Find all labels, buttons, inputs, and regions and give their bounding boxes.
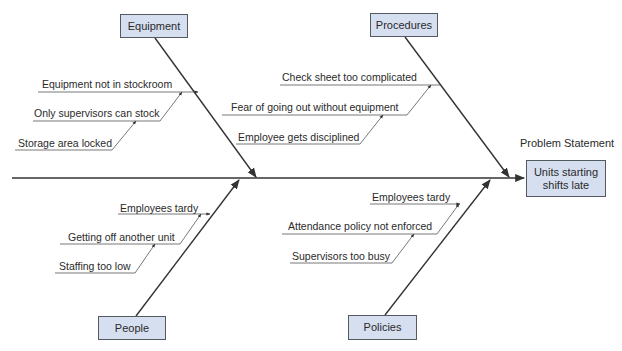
problem-statement-box: Units starting shifts late: [526, 160, 606, 197]
category-procedures: Procedures: [370, 13, 438, 37]
cause-label: Attendance policy not enforced: [288, 220, 432, 232]
category-label: Equipment: [128, 20, 181, 33]
people-branch: [136, 180, 239, 316]
cause-label: Supervisors too busy: [292, 250, 390, 262]
problem-statement-label: Problem Statement: [520, 137, 614, 149]
cause-label: Employees tardy: [120, 202, 198, 214]
cause-label: Fear of going out without equipment: [231, 101, 399, 113]
cause-label: Storage area locked: [18, 137, 112, 149]
category-label: Procedures: [376, 19, 432, 32]
category-policies: Policies: [348, 315, 417, 340]
category-people: People: [98, 316, 166, 340]
cause-label: Employee gets disciplined: [238, 131, 359, 143]
cause-label: Check sheet too complicated: [282, 71, 417, 83]
problem-line-1: Units starting: [534, 166, 598, 179]
procedures-branch: [405, 37, 509, 177]
fishbone-diagram: Equipment Procedures People Policies Pro…: [0, 0, 622, 351]
cause-label: Staffing too low: [59, 260, 131, 272]
category-label: Policies: [364, 321, 402, 334]
category-label: People: [115, 322, 149, 335]
problem-line-2: shifts late: [543, 179, 589, 192]
cause-label: Only supervisors can stock: [34, 107, 159, 119]
category-equipment: Equipment: [120, 14, 188, 38]
cause-label: Employees tardy: [372, 191, 450, 203]
cause-label: Getting off another unit: [68, 231, 175, 243]
cause-label: Equipment not in stockroom: [42, 78, 172, 90]
